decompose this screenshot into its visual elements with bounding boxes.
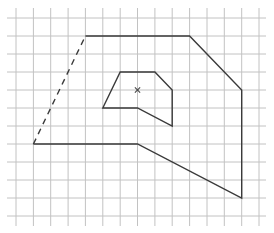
- grid-diagram: [0, 0, 274, 233]
- square-grid: [7, 8, 266, 226]
